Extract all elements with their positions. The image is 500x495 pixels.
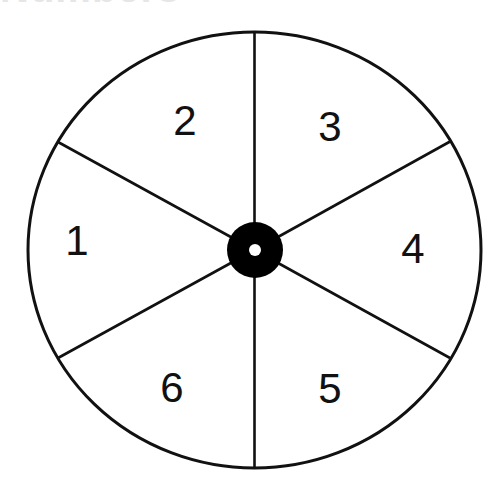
sector-label-2: 2 <box>173 97 196 144</box>
sector-label-3: 3 <box>318 103 341 150</box>
sector-label-1: 1 <box>65 217 88 264</box>
spinner-hub-hole <box>249 244 261 256</box>
spinner-diagram: 1 2 3 4 5 6 <box>0 0 500 495</box>
sector-label-4: 4 <box>401 225 424 272</box>
sector-label-6: 6 <box>160 364 183 411</box>
sector-label-5: 5 <box>318 365 341 412</box>
